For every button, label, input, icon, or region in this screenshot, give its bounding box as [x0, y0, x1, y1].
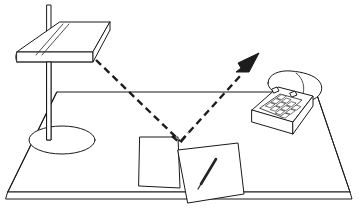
lamp-pole-lower — [47, 62, 51, 140]
lamp-shade — [16, 22, 111, 62]
lamp-shade-front — [17, 52, 93, 62]
lamp-base — [29, 126, 95, 154]
paper-sheet-right — [178, 143, 244, 203]
paper-sheet-left — [139, 137, 180, 188]
scene-drawing: Desk lamp light reflecting off paper on … — [0, 0, 361, 221]
ray-arrowhead — [236, 53, 259, 72]
desk-front-edge — [6, 192, 352, 199]
illustration-canvas: Desk lamp light reflecting off paper on … — [0, 0, 361, 221]
